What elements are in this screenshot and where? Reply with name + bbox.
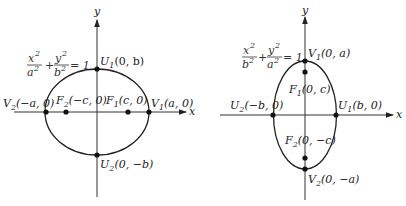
y-axis-label: y [301,4,309,17]
label-U2: U2(0, −b) [100,158,153,173]
figure-vertical-ellipse: x y x 2 b 2 + y 2 a 2 = 1 V1(0, a) F1(0,… [220,4,403,200]
svg-text:2: 2 [249,41,255,50]
label-V1: V1(a, 0) [151,97,193,112]
svg-text:2: 2 [61,49,67,58]
svg-text:2: 2 [33,64,39,73]
point-F1 [302,69,307,74]
point-V1 [302,58,307,63]
svg-text:+: + [258,51,267,64]
label-U2: U2(−b, 0) [230,99,283,114]
point-V1 [146,109,151,114]
svg-text:b: b [242,58,249,71]
svg-text:= 1: = 1 [70,59,90,72]
svg-text:b: b [54,66,61,79]
svg-text:a: a [267,58,274,71]
point-V2 [43,109,48,114]
ellipse-equation: x 2 b 2 + y 2 a 2 = 1 [242,41,303,71]
point-F2 [63,109,68,114]
point-F2 [302,155,307,160]
point-V2 [302,166,307,171]
svg-text:2: 2 [60,64,66,73]
ellipse-diagrams: x y x 2 a 2 + y 2 b 2 = 1 U1(0, b) U2(0,… [0,0,406,206]
point-U1 [333,112,338,117]
point-F1 [125,109,130,114]
svg-text:2: 2 [34,49,40,58]
label-V2: V2(−a, 0) [3,97,54,112]
svg-text:+: + [45,59,54,72]
point-U2 [270,112,275,117]
svg-text:a: a [27,66,34,79]
svg-text:2: 2 [248,56,254,65]
label-V1: V1(0, a) [308,47,350,62]
point-U1 [94,66,99,71]
y-axis-label: y [93,5,101,18]
x-axis-label: x [396,108,403,121]
svg-text:= 1: = 1 [283,51,303,64]
label-F2: F2(0, −c) [284,134,336,149]
figure-horizontal-ellipse: x y x 2 a 2 + y 2 b 2 = 1 U1(0, b) U2(0,… [3,5,196,197]
svg-text:2: 2 [274,41,280,50]
label-U1: U1(b, 0) [338,99,382,114]
point-U2 [94,152,99,157]
label-F2: F2(−c, 0) [55,94,107,109]
label-F1: F1(0, c) [288,83,330,98]
label-U1: U1(0, b) [100,55,144,70]
ellipse-equation: x 2 a 2 + y 2 b 2 = 1 [27,49,90,79]
label-V2: V2(0, −a) [308,173,359,188]
label-F1: F1(c, 0) [105,94,147,109]
svg-text:2: 2 [273,56,279,65]
